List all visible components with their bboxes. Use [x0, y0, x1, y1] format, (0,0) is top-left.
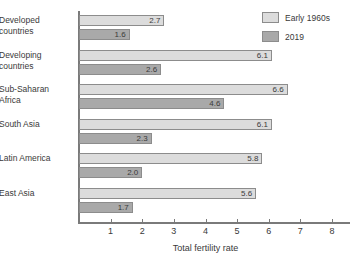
- x-tick-mark: [300, 219, 301, 223]
- x-tick-mark: [79, 219, 80, 223]
- bar-2019: 4.6: [79, 98, 224, 109]
- bar-early-1960s: 6.1: [79, 119, 272, 130]
- bar-2019: 1.7: [79, 202, 133, 213]
- fertility-rate-bar-chart: Early 1960s 2019 12345678 Developedcount…: [0, 0, 351, 261]
- plot-area: 12345678 Developedcountries2.71.6Develop…: [79, 12, 332, 222]
- x-tick-mark: [206, 219, 207, 223]
- bar-early-1960s: 6.6: [79, 84, 288, 95]
- bar-value-label: 4.6: [209, 99, 223, 108]
- x-tick-label: 4: [196, 226, 216, 236]
- bar-early-1960s: 2.7: [79, 15, 164, 26]
- x-tick-mark: [111, 219, 112, 223]
- category-label-line: Africa: [0, 95, 71, 106]
- x-tick-label: 5: [227, 226, 247, 236]
- x-tick-label: 6: [259, 226, 279, 236]
- x-tick-mark: [174, 219, 175, 223]
- category-label-line: Developing: [0, 50, 71, 61]
- category-label-line: countries: [0, 26, 71, 37]
- x-axis-ticks: 12345678: [79, 222, 332, 242]
- bar-value-label: 2.3: [137, 134, 151, 143]
- category-label: Developingcountries: [0, 50, 71, 72]
- category-label-line: Developed: [0, 15, 71, 26]
- bar-group: Sub-SaharanAfrica6.64.6: [79, 84, 332, 109]
- x-tick-label: 3: [164, 226, 184, 236]
- bar-value-label: 5.6: [241, 189, 255, 198]
- bar-group: South Asia6.12.3: [79, 119, 332, 144]
- x-tick-label: 8: [322, 226, 342, 236]
- bar-group: East Asia5.61.7: [79, 188, 332, 213]
- category-label: Latin America: [0, 153, 71, 164]
- bar-value-label: 1.6: [114, 30, 128, 39]
- bar-2019: 1.6: [79, 29, 130, 40]
- x-tick-mark: [332, 219, 333, 223]
- category-label: Sub-SaharanAfrica: [0, 84, 71, 106]
- category-label-line: countries: [0, 61, 71, 72]
- category-label-line: South Asia: [0, 119, 71, 130]
- bar-value-label: 2.6: [146, 65, 160, 74]
- bar-value-label: 6.6: [273, 85, 287, 94]
- x-tick-label: 1: [101, 226, 121, 236]
- bar-early-1960s: 5.8: [79, 153, 262, 164]
- x-tick-mark: [269, 219, 270, 223]
- bar-value-label: 5.8: [247, 154, 261, 163]
- x-axis-title: Total fertility rate: [79, 243, 332, 253]
- bar-2019: 2.0: [79, 167, 142, 178]
- x-tick-label: 7: [290, 226, 310, 236]
- category-label: South Asia: [0, 119, 71, 130]
- bar-value-label: 1.7: [118, 203, 132, 212]
- bar-value-label: 2.7: [149, 16, 163, 25]
- bar-early-1960s: 5.6: [79, 188, 256, 199]
- bar-group: Developingcountries6.12.6: [79, 50, 332, 75]
- x-tick-label: 2: [132, 226, 152, 236]
- category-label-line: Latin America: [0, 153, 71, 164]
- category-label-line: Sub-Saharan: [0, 84, 71, 95]
- bar-value-label: 2.0: [127, 168, 141, 177]
- bar-value-label: 6.1: [257, 51, 271, 60]
- bar-value-label: 6.1: [257, 120, 271, 129]
- bar-2019: 2.3: [79, 133, 152, 144]
- bar-early-1960s: 6.1: [79, 50, 272, 61]
- bar-group: Developedcountries2.71.6: [79, 15, 332, 40]
- x-tick-mark: [142, 219, 143, 223]
- x-tick-mark: [237, 219, 238, 223]
- category-label-line: East Asia: [0, 188, 71, 199]
- bar-2019: 2.6: [79, 64, 161, 75]
- bar-group: Latin America5.82.0: [79, 153, 332, 178]
- category-label: East Asia: [0, 188, 71, 199]
- category-label: Developedcountries: [0, 15, 71, 37]
